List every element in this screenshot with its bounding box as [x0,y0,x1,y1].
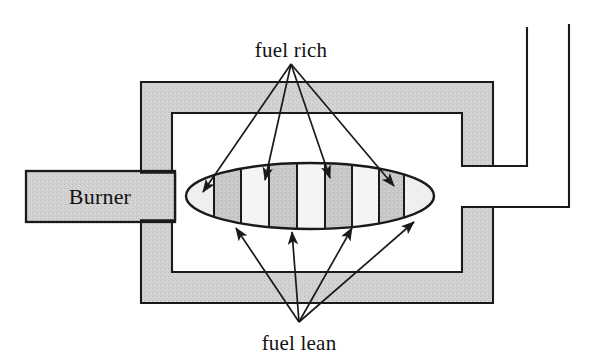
flame-stripe-5-light [297,161,325,231]
flame-stripe-1-light [186,161,214,231]
diagram-canvas: Burner [0,0,597,362]
burner-snout-cover [140,173,175,221]
flame-stripe-9-light [404,161,436,231]
flame-envelope [186,161,436,231]
fuel-rich-label: fuel rich [255,38,328,62]
burner-label: Burner [69,184,132,209]
flame-stripe-7-light [352,161,379,231]
exit-duct-outer-line [493,24,569,207]
flame-stripe-6-dark [325,161,352,231]
flame-stripe-4-dark [269,161,297,231]
flame-stripe-3-light [241,161,269,231]
combustion-chamber-diagram: Burner [0,0,597,362]
fuel-lean-label: fuel lean [262,331,337,355]
